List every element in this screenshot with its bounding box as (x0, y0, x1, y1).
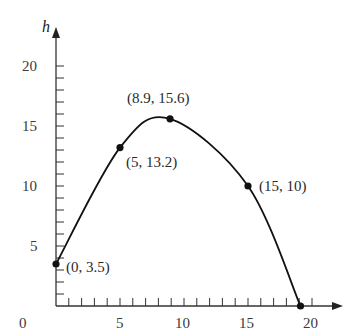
y-tick-label-5: 5 (30, 238, 38, 254)
chart: h 5 10 15 20 0 5 10 15 20 (0, 3.5) (5, 1… (0, 0, 343, 335)
x-tick-label-0: 0 (19, 315, 27, 331)
data-point-2 (166, 115, 173, 122)
y-tick-label-15: 15 (22, 118, 37, 134)
y-ticks (56, 66, 64, 294)
point-label-2: (8.9, 15.6) (127, 90, 190, 107)
x-tick-label-5: 5 (116, 315, 124, 331)
y-axis-label: h (42, 18, 50, 35)
x-axis-arrow-icon (332, 302, 343, 310)
data-curve (56, 117, 300, 306)
data-point-3 (244, 182, 251, 189)
point-label-1: (5, 13.2) (126, 154, 177, 171)
y-tick-label-20: 20 (22, 58, 37, 74)
y-tick-label-10: 10 (22, 178, 37, 194)
x-ticks (69, 298, 312, 306)
point-label-0: (0, 3.5) (66, 259, 110, 276)
x-tick-label-20: 20 (303, 315, 318, 331)
data-point-4 (297, 302, 304, 309)
x-tick-label-15: 15 (239, 315, 254, 331)
data-point-1 (116, 144, 123, 151)
point-label-3: (15, 10) (259, 178, 307, 195)
x-tick-label-10: 10 (175, 315, 190, 331)
data-point-0 (52, 260, 59, 267)
y-axis-arrow-icon (52, 27, 60, 38)
